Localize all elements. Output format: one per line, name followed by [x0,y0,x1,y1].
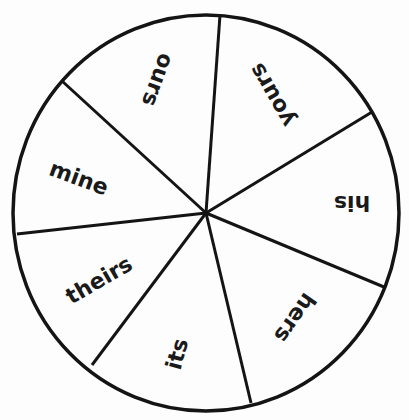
segment-label-his: his [334,191,370,216]
wheel-spokes [17,15,384,403]
segment-label-ours: ours [137,50,179,110]
pronoun-wheel: oursyourshishersitstheirsmine [0,0,409,420]
spoke [17,213,206,234]
segment-label-mine: mine [46,156,112,200]
segment-label-yours: yours [244,59,300,131]
spoke [206,213,251,403]
spoke [206,213,384,287]
spoke [206,15,220,213]
segment-label-theirs: theirs [61,251,136,309]
spoke [62,81,206,213]
segment-label-hers: hers [269,288,321,347]
segment-label-its: its [161,336,193,373]
